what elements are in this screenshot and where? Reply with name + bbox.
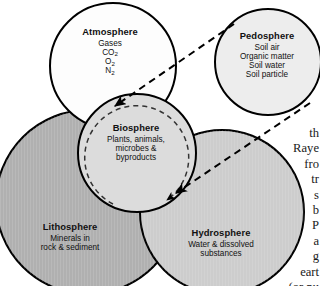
body-text-line: Raye bbox=[286, 141, 320, 156]
body-text-line: s bbox=[286, 188, 320, 203]
clipped-body-text: th Raye fro tr s b P a g eart (or nu bbox=[286, 126, 320, 286]
body-text-line: fro bbox=[286, 157, 320, 172]
body-text-line: (or nu bbox=[286, 280, 320, 286]
body-text-line: th bbox=[286, 126, 320, 141]
body-text-line: a bbox=[286, 234, 320, 249]
body-text-fragment: a bbox=[313, 234, 319, 249]
spheres-venn-diagram bbox=[0, 0, 320, 286]
body-text-line: g bbox=[286, 249, 320, 264]
body-text-fragment: eart bbox=[300, 265, 319, 280]
body-text-fragment: g bbox=[313, 249, 319, 264]
figure-page: Atmosphere Gases CO2 O2 N2 Pedosphere So… bbox=[0, 0, 320, 286]
body-text-line: eart bbox=[286, 265, 320, 280]
body-text-line: P bbox=[286, 218, 320, 233]
body-text-line: b bbox=[286, 203, 320, 218]
body-text-fragment: th bbox=[309, 126, 319, 141]
body-text-line: tr bbox=[286, 172, 320, 187]
body-text-fragment: fro bbox=[304, 157, 319, 172]
body-text-fragment: b bbox=[313, 203, 319, 218]
body-text-fragment: tr bbox=[311, 172, 319, 187]
body-text-fragment: Raye bbox=[293, 141, 319, 156]
body-text-fragment: (or nu bbox=[289, 280, 319, 286]
body-text-fragment: P bbox=[312, 218, 319, 233]
body-text-fragment: s bbox=[314, 188, 319, 203]
pedosphere-circle bbox=[215, 9, 320, 115]
biosphere-circle bbox=[78, 94, 196, 212]
